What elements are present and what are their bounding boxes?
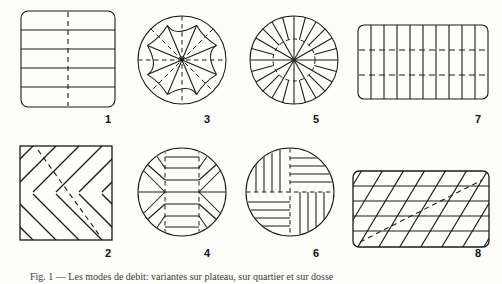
figure-6-circle-pinwheel-quadrants: [242, 144, 338, 240]
figure-2-square-diamond-lattice: [16, 142, 116, 244]
figure-5-circle-radial-sectors: [246, 12, 342, 108]
figure-2-label: 2: [101, 247, 115, 259]
figure-8-label: 8: [471, 247, 485, 259]
figure-6-label: 6: [309, 247, 323, 259]
figure-1-label: 1: [101, 113, 115, 125]
figure-4-label: 4: [200, 247, 214, 259]
figure-1-square-horizontal-bands: [18, 8, 118, 110]
figure-4-circle-central-blocks: [134, 144, 230, 240]
figure-plate: 1: [0, 0, 502, 284]
figure-5-label: 5: [309, 113, 323, 125]
figure-3-circle-star-rosette: [134, 12, 230, 108]
figure-3-label: 3: [200, 113, 214, 125]
figure-7-rectangle-vertical-staves: [355, 22, 491, 102]
figure-8-rectangle-diagonal-hatch: [350, 168, 492, 250]
figure-7-label: 7: [471, 113, 485, 125]
plate-caption: Fig. 1 — Les modes de debit: variantes s…: [30, 270, 490, 283]
